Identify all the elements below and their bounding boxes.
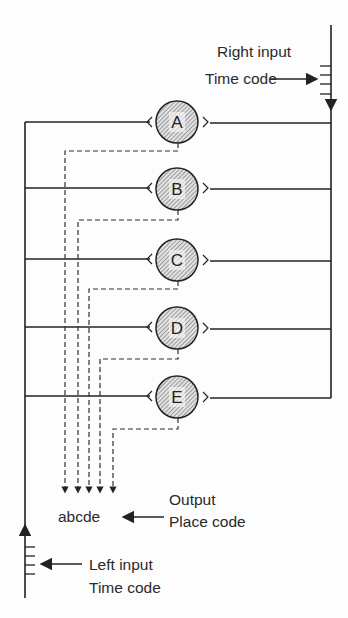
- node-c-label: C: [171, 251, 183, 270]
- right-input-sublabel: Time code: [205, 70, 277, 87]
- node-d-label: D: [171, 319, 183, 338]
- node-row-e: E: [25, 376, 331, 418]
- left-input-sublabel: Time code: [89, 579, 161, 596]
- node-b-label: B: [171, 180, 182, 199]
- node-a-label: A: [171, 113, 183, 132]
- node-row-b: B: [25, 168, 331, 210]
- node-row-c: C: [25, 239, 331, 281]
- output-label: Output: [169, 491, 216, 508]
- node-row-a: A: [25, 101, 331, 143]
- node-row-d: D: [25, 307, 331, 349]
- delay-line-diagram: Right input Time code Left input Time co…: [0, 0, 348, 618]
- left-input-label: Left input: [89, 556, 153, 573]
- output-code-value: abcde: [58, 508, 100, 525]
- right-input-label: Right input: [217, 43, 292, 60]
- left-input-spikes: [25, 547, 35, 574]
- node-e-label: E: [171, 388, 182, 407]
- output-sublabel: Place code: [169, 513, 246, 530]
- right-input-spikes: [320, 66, 331, 94]
